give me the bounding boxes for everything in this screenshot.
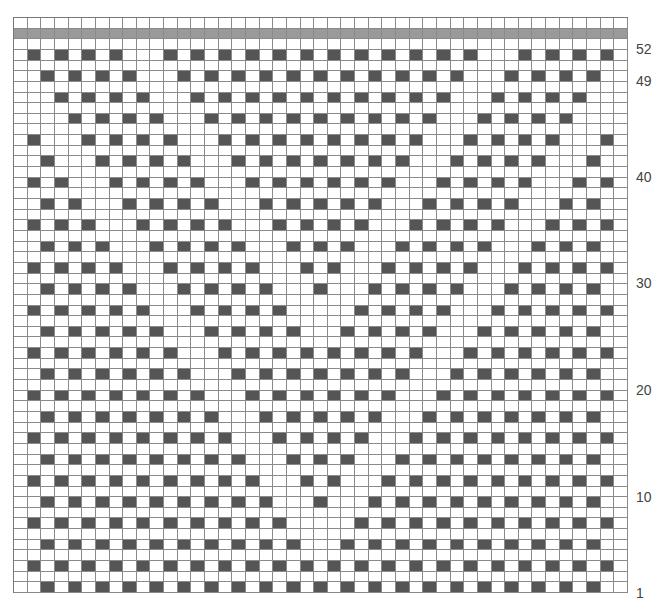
filled-cell	[28, 561, 42, 572]
empty-cell	[396, 199, 410, 210]
empty-cell	[355, 167, 369, 178]
empty-cell	[410, 359, 424, 370]
empty-cell	[519, 284, 533, 295]
empty-cell	[150, 508, 164, 519]
empty-cell	[232, 412, 246, 423]
empty-cell	[519, 465, 533, 476]
empty-cell	[55, 582, 69, 593]
filled-cell	[123, 455, 137, 466]
empty-cell	[396, 146, 410, 157]
empty-cell	[301, 82, 315, 93]
empty-cell	[110, 497, 124, 508]
empty-cell	[478, 487, 492, 498]
empty-cell	[314, 487, 328, 498]
filled-cell	[69, 369, 83, 380]
band-cell	[164, 29, 178, 40]
empty-cell	[96, 423, 110, 434]
empty-cell	[369, 529, 383, 540]
filled-cell	[573, 518, 587, 529]
empty-cell	[14, 220, 28, 231]
empty-cell	[232, 82, 246, 93]
empty-cell	[14, 50, 28, 61]
filled-cell	[382, 306, 396, 317]
empty-cell	[437, 210, 451, 221]
filled-cell	[191, 178, 205, 189]
empty-cell	[341, 518, 355, 529]
empty-cell	[587, 306, 601, 317]
empty-cell	[355, 199, 369, 210]
filled-cell	[96, 71, 110, 82]
empty-cell	[382, 210, 396, 221]
empty-cell	[328, 401, 342, 412]
band-cell	[110, 29, 124, 40]
empty-cell	[205, 369, 219, 380]
filled-cell	[123, 369, 137, 380]
empty-cell	[82, 487, 96, 498]
empty-cell	[287, 274, 301, 285]
empty-cell	[164, 529, 178, 540]
empty-cell	[178, 135, 192, 146]
empty-cell	[314, 50, 328, 61]
filled-cell	[41, 156, 55, 167]
empty-cell	[587, 561, 601, 572]
empty-cell	[314, 274, 328, 285]
empty-cell	[14, 348, 28, 359]
empty-cell	[205, 61, 219, 72]
empty-cell	[260, 433, 274, 444]
row-label: 1	[636, 586, 644, 600]
empty-cell	[287, 306, 301, 317]
filled-cell	[273, 135, 287, 146]
filled-cell	[478, 369, 492, 380]
empty-cell	[96, 550, 110, 561]
empty-cell	[451, 391, 465, 402]
empty-cell	[178, 348, 192, 359]
empty-cell	[178, 423, 192, 434]
filled-cell	[150, 156, 164, 167]
empty-cell	[423, 529, 437, 540]
empty-cell	[423, 380, 437, 391]
empty-cell	[260, 274, 274, 285]
empty-cell	[96, 572, 110, 583]
filled-cell	[287, 114, 301, 125]
empty-cell	[219, 210, 233, 221]
empty-cell	[341, 433, 355, 444]
empty-cell	[14, 39, 28, 50]
filled-cell	[369, 582, 383, 593]
empty-cell	[137, 401, 151, 412]
empty-cell	[28, 39, 42, 50]
empty-cell	[219, 156, 233, 167]
empty-cell	[164, 167, 178, 178]
empty-cell	[355, 18, 369, 29]
filled-cell	[587, 327, 601, 338]
filled-cell	[478, 156, 492, 167]
empty-cell	[191, 550, 205, 561]
empty-cell	[28, 210, 42, 221]
filled-cell	[532, 242, 546, 253]
empty-cell	[110, 61, 124, 72]
filled-cell	[587, 156, 601, 167]
empty-cell	[260, 242, 274, 253]
filled-cell	[532, 327, 546, 338]
empty-cell	[219, 412, 233, 423]
empty-cell	[614, 423, 628, 434]
empty-cell	[601, 497, 615, 508]
empty-cell	[69, 178, 83, 189]
empty-cell	[178, 572, 192, 583]
empty-cell	[164, 210, 178, 221]
empty-cell	[587, 18, 601, 29]
filled-cell	[314, 455, 328, 466]
empty-cell	[219, 540, 233, 551]
filled-cell	[382, 135, 396, 146]
filled-cell	[573, 348, 587, 359]
empty-cell	[246, 199, 260, 210]
empty-cell	[560, 518, 574, 529]
empty-cell	[328, 550, 342, 561]
empty-cell	[164, 412, 178, 423]
filled-cell	[205, 497, 219, 508]
filled-cell	[369, 327, 383, 338]
filled-cell	[137, 476, 151, 487]
empty-cell	[96, 178, 110, 189]
filled-cell	[601, 178, 615, 189]
empty-cell	[137, 327, 151, 338]
empty-cell	[219, 18, 233, 29]
